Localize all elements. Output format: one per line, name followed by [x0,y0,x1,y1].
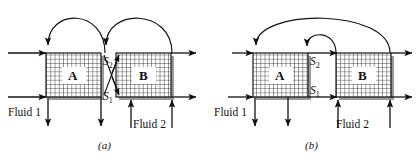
a-arc-right-recycle [106,18,172,53]
fluid-1-label: Fluid 1 [214,106,247,118]
block-b-label: B [139,68,148,84]
stream-s2-label: S2 [103,55,113,70]
fluid-2-label: Fluid 2 [133,118,166,130]
stream-s1-subscript: 1 [109,96,113,105]
b-arc-small-recycle [307,35,336,53]
fluid-1-label: Fluid 1 [8,106,41,118]
stream-s2-subscript: 2 [109,61,113,70]
stream-s2-subscript: 2 [316,61,320,70]
stream-s1-subscript: 1 [316,90,320,99]
caption-a: (a) [98,139,111,151]
stream-s1-label: S1 [103,90,113,105]
a-arc-left-recycle [48,18,105,53]
stream-s1-label: S1 [310,84,320,99]
fluid-2-label: Fluid 2 [336,118,369,130]
diagram-svg [0,0,416,163]
caption-b: (b) [305,139,318,151]
block-a-label: A [68,68,77,84]
panel-b [228,18,412,128]
figure-canvas: A B S2 S1 Fluid 1 Fluid 2 (a) A B S2 S1 … [0,0,416,163]
block-a-label: A [275,68,284,84]
block-b-label: B [358,68,367,84]
stream-s2-label: S2 [310,55,320,70]
